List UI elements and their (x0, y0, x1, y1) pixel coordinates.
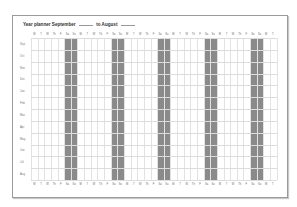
day-label: Sa (111, 182, 118, 187)
month-label: Jan (20, 89, 31, 93)
day-label: Sa (250, 32, 257, 37)
day-label: Su (71, 182, 78, 187)
day-label: Th (97, 32, 104, 37)
day-label: M (124, 182, 131, 187)
day-label: M (170, 182, 177, 187)
grid-row-line (31, 97, 277, 98)
grid-row-line (31, 62, 277, 63)
title-prefix: Year planner September (23, 22, 76, 27)
month-label: Nov (20, 66, 31, 70)
title-middle: to August (96, 22, 117, 27)
grid-row-line (31, 121, 277, 122)
day-label: Sa (64, 182, 71, 187)
day-header-top: MTWThFSaSuMTWThFSaSuMTWThFSaSuMTWThFSaSu… (31, 32, 276, 37)
day-label: Su (210, 182, 217, 187)
day-label: M (263, 182, 270, 187)
grid-row-line (31, 109, 277, 110)
day-label: Su (210, 32, 217, 37)
day-label: F (150, 182, 157, 187)
day-label: T (38, 32, 45, 37)
day-label: M (31, 182, 38, 187)
day-label: W (137, 182, 144, 187)
month-label: Apr (20, 125, 31, 129)
day-label: Th (51, 32, 58, 37)
day-label: W (230, 182, 237, 187)
day-label: W (91, 32, 98, 37)
day-label: F (197, 32, 204, 37)
grid-row-line (31, 168, 277, 169)
start-year-blank[interactable] (79, 25, 93, 26)
day-label: T (130, 182, 137, 187)
day-label: Sa (250, 182, 257, 187)
month-label: Oct (20, 54, 31, 58)
day-label: T (270, 182, 277, 187)
month-label: Jul (20, 160, 31, 164)
day-label: Su (71, 32, 78, 37)
grid-row-line (31, 85, 277, 86)
day-label: Sa (203, 32, 210, 37)
day-label: T (84, 32, 91, 37)
day-label: T (177, 182, 184, 187)
month-label: Mar (20, 113, 31, 117)
grid-row-line (31, 145, 277, 146)
day-label: F (58, 32, 65, 37)
month-label: Aug (20, 172, 31, 176)
day-label: W (183, 182, 190, 187)
day-label: Th (190, 182, 197, 187)
day-label: M (124, 32, 131, 37)
day-label: Sa (157, 182, 164, 187)
month-label: Sep (20, 42, 31, 46)
day-label: Th (51, 182, 58, 187)
day-label: T (130, 32, 137, 37)
day-label: Sa (157, 32, 164, 37)
day-label: T (223, 182, 230, 187)
day-label: M (263, 32, 270, 37)
day-label: F (150, 32, 157, 37)
day-label: F (104, 182, 111, 187)
day-label: Su (164, 32, 171, 37)
day-label: W (230, 32, 237, 37)
day-header-bottom: MTWThFSaSuMTWThFSaSuMTWThFSaSuMTWThFSaSu… (31, 182, 276, 187)
day-label: F (243, 182, 250, 187)
grid-row-line (31, 156, 277, 157)
day-label: Sa (64, 32, 71, 37)
planner-grid (31, 38, 277, 180)
day-label: W (44, 32, 51, 37)
day-label: T (270, 32, 277, 37)
day-label: M (217, 32, 224, 37)
day-label: W (91, 182, 98, 187)
day-label: M (31, 32, 38, 37)
grid-row-line (31, 180, 277, 181)
day-label: Th (236, 32, 243, 37)
day-label: Th (190, 32, 197, 37)
day-label: F (243, 32, 250, 37)
day-label: Sa (111, 32, 118, 37)
day-label: M (217, 182, 224, 187)
day-label: Su (117, 182, 124, 187)
day-label: Th (97, 182, 104, 187)
grid-row-line (31, 74, 277, 75)
grid-row-line (31, 133, 277, 134)
day-label: W (44, 182, 51, 187)
day-label: Th (236, 182, 243, 187)
day-label: Th (144, 182, 151, 187)
grid-row-line (31, 50, 277, 51)
grid-row-line (31, 38, 277, 39)
day-label: Th (144, 32, 151, 37)
month-label: May (20, 137, 31, 141)
planner-title: Year planner September to August (23, 22, 137, 27)
end-year-blank[interactable] (121, 25, 135, 26)
day-label: F (104, 32, 111, 37)
day-label: Su (256, 32, 263, 37)
day-label: M (77, 32, 84, 37)
day-label: W (137, 32, 144, 37)
day-label: T (223, 32, 230, 37)
day-label: M (77, 182, 84, 187)
day-label: T (84, 182, 91, 187)
day-label: T (38, 182, 45, 187)
month-label: Dec (20, 77, 31, 81)
month-label: Jun (20, 148, 31, 152)
month-label: Feb (20, 101, 31, 105)
day-label: F (197, 182, 204, 187)
day-label: M (170, 32, 177, 37)
